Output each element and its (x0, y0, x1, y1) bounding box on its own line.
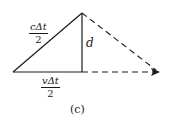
triangle-diagram (0, 0, 172, 122)
figure-caption: (c) (70, 103, 85, 116)
hypotenuse-denominator: 2 (35, 34, 41, 45)
hypotenuse-numerator: cΔt (29, 22, 48, 34)
base-denominator: 2 (47, 88, 53, 99)
base-numerator: vΔt (41, 76, 60, 88)
hypotenuse-label: cΔt 2 (29, 22, 48, 45)
height-label: d (86, 36, 94, 50)
base-label: vΔt 2 (41, 76, 60, 99)
